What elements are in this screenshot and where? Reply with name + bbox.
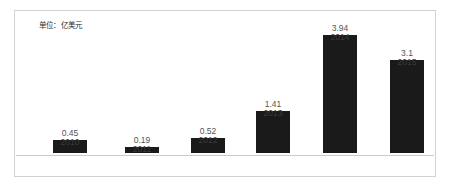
category-label: 2014	[310, 32, 370, 42]
category-label: 2011	[112, 144, 172, 154]
bar-chart: 单位：亿美元 0.4520100.1920110.5220121.4120133…	[0, 0, 451, 187]
bar-group-2010: 0.452010	[40, 128, 100, 153]
chart-frame: 单位：亿美元 0.4520100.1920110.5220121.4120133…	[14, 10, 436, 177]
bar-group-2015: 3.12015	[377, 48, 437, 153]
bar-group-2013: 1.412013	[243, 99, 303, 153]
axis-baseline	[16, 155, 434, 156]
bar-group-2011: 0.192011	[112, 135, 172, 153]
bar-group-2012: 0.522012	[178, 126, 238, 153]
category-label: 2013	[243, 108, 303, 118]
category-label: 2015	[377, 57, 437, 67]
category-label: 2010	[40, 137, 100, 147]
plot-area: 0.4520100.1920110.5220121.4120133.942014…	[15, 11, 435, 176]
bar-rect	[323, 35, 357, 153]
category-label: 2012	[178, 135, 238, 145]
bar-group-2014: 3.942014	[310, 23, 370, 153]
bar-rect	[390, 60, 424, 153]
